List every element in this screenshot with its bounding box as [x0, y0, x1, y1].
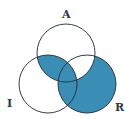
- label-a: A: [61, 8, 71, 21]
- venn-diagram: A I R: [0, 0, 133, 119]
- label-i: I: [7, 97, 12, 110]
- label-r: R: [115, 101, 125, 114]
